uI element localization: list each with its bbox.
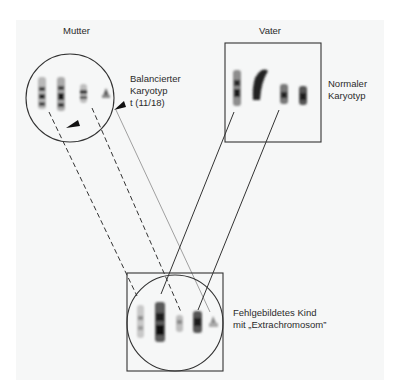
father-title: Vater: [259, 25, 281, 37]
chromosome-icon: [57, 77, 65, 111]
chromosome-icon: [299, 86, 307, 105]
chromosome-icon: [253, 70, 268, 100]
chromosome-icon: [209, 316, 218, 327]
inheritance-line-dashed: [49, 112, 137, 296]
karyotype-inheritance-diagram: [0, 0, 397, 387]
child-annotation-line-1: Fehlgebildetes Kind: [233, 307, 316, 319]
child-chromosomes: [137, 302, 218, 342]
father-chromosomes: [233, 70, 307, 106]
mother-annotation-line-3: t (11/18): [130, 97, 165, 109]
inheritance-line-solid: [198, 110, 279, 310]
chromosome-icon: [38, 77, 46, 109]
mother-annotation-line-2: Karyotyp: [130, 85, 168, 97]
chromosome-icon: [233, 70, 241, 106]
chromosome-icon: [80, 84, 87, 103]
mother-chromosomes: [38, 77, 110, 111]
arrow-pointer-icon: [114, 101, 126, 110]
child-annotation-line-2: mit „Extrachromosom”: [233, 319, 326, 331]
inheritance-line-solid: [161, 112, 234, 294]
inheritance-line-dashed: [92, 108, 181, 312]
mother-title: Mutter: [63, 25, 90, 37]
father-annotation-line-1: Normaler: [328, 78, 367, 90]
chromosome-icon: [280, 84, 288, 104]
arrow-pointer-icon: [66, 120, 80, 128]
chromosome-icon: [137, 305, 144, 338]
chromosome-icon: [176, 315, 183, 332]
chromosome-icon: [102, 88, 110, 98]
chromosome-icon: [193, 311, 202, 333]
mother-annotation-line-1: Balancierter: [130, 73, 181, 85]
father-annotation-line-2: Karyotyp: [328, 90, 366, 102]
chromosome-icon: [155, 302, 165, 342]
